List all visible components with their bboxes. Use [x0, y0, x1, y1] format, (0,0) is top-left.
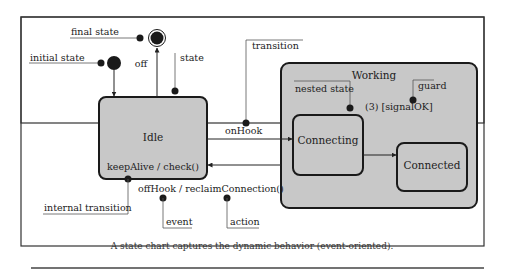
offhook-transition-label: offHook / reclaimConnection() — [138, 183, 284, 194]
idle-internal-transition: keepAlive / check() — [107, 161, 199, 172]
annotation-guard: guard — [418, 80, 447, 91]
state-working-label: Working — [352, 69, 397, 81]
state-connected-label: Connected — [403, 159, 460, 171]
annotation-initial-state: initial state — [30, 52, 85, 63]
state-chart-diagram: Working Connecting Connected Idle keepAl… — [0, 0, 505, 275]
figure-caption: A state chart captures the dynamic behav… — [110, 241, 394, 251]
annotation-action: action — [230, 216, 260, 227]
annotation-internal-transition: internal transition — [44, 202, 132, 213]
annotation-transition: transition — [252, 40, 299, 51]
annotation-state: state — [180, 52, 204, 63]
annotation-final-state: final state — [71, 26, 119, 37]
guard-transition-label: (3) [signalOK] — [365, 101, 433, 112]
off-transition-label: off — [135, 58, 149, 69]
annotation-event: event — [166, 216, 193, 227]
annotation-nested-state: nested state — [295, 83, 354, 94]
initial-state-node — [107, 56, 121, 70]
state-connecting-label: Connecting — [297, 134, 358, 146]
state-idle-label: Idle — [143, 131, 163, 143]
onhook-transition-label: onHook — [225, 125, 263, 136]
